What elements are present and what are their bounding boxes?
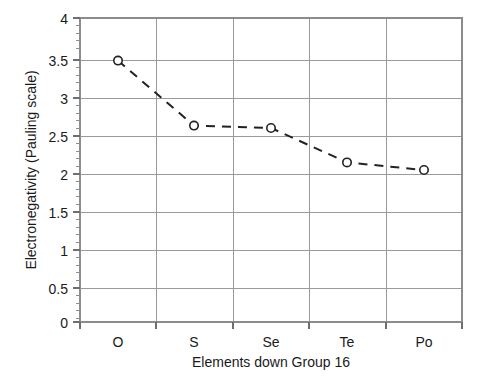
data-point-po — [420, 166, 428, 174]
plot-area-background — [80, 18, 462, 322]
y-tick-label-3.5: 3.5 — [49, 53, 69, 69]
y-tick-label-0.5: 0.5 — [49, 281, 69, 297]
y-tick-label-1.5: 1.5 — [49, 205, 69, 221]
data-point-se — [267, 124, 275, 132]
y-tick-label-0: 0 — [60, 315, 68, 331]
data-point-s — [190, 121, 198, 129]
y-tick-label-2: 2 — [60, 167, 68, 183]
data-point-o — [114, 56, 122, 64]
y-tick-label-4: 4 — [60, 11, 68, 27]
data-point-te — [343, 158, 351, 166]
y-tick-label-2.5: 2.5 — [49, 129, 69, 145]
y-tick-label-3: 3 — [60, 91, 68, 107]
x-tick-label-s: S — [189, 334, 198, 350]
chart-container: 4 3.5 3 2.5 2 1.5 1 0.5 0 O S Se Te Po — [0, 0, 486, 381]
x-tick-label-o: O — [113, 334, 124, 350]
x-tick-label-po: Po — [415, 334, 432, 350]
y-tick-label-1: 1 — [60, 243, 68, 259]
y-axis-title: Electronegativity (Pauling scale) — [23, 70, 39, 269]
electronegativity-line-chart: 4 3.5 3 2.5 2 1.5 1 0.5 0 O S Se Te Po — [0, 0, 486, 381]
x-axis-title: Elements down Group 16 — [192, 354, 350, 370]
x-tick-label-te: Te — [340, 334, 355, 350]
x-tick-label-se: Se — [262, 334, 279, 350]
